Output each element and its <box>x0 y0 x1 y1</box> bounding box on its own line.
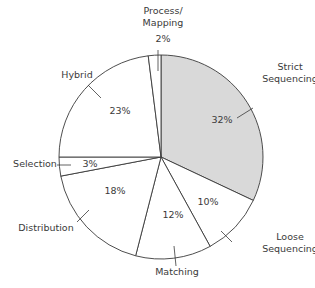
slice-name-label: Matching <box>155 266 199 277</box>
slice-name-label: Selection <box>13 158 57 169</box>
slice-percent-label: 23% <box>109 105 130 116</box>
pie-chart: 32%StrictSequencing10%LooseSequencing12%… <box>0 0 315 288</box>
slice-name-label: LooseSequencing <box>262 231 315 254</box>
slice-percent-label: 2% <box>155 33 170 44</box>
slice-name-label: StrictSequencing <box>262 61 315 84</box>
pie-slices <box>59 55 263 259</box>
slice-name-label: Hybrid <box>61 69 92 80</box>
slice-percent-label: 18% <box>104 185 125 196</box>
slice-percent-label: 12% <box>162 209 183 220</box>
slice-percent-label: 32% <box>211 114 232 125</box>
slice-name-label: Process/Mapping <box>143 5 184 28</box>
slice-percent-label: 3% <box>82 158 97 169</box>
slice-name-label: Distribution <box>18 222 73 233</box>
slice-percent-label: 10% <box>197 196 218 207</box>
